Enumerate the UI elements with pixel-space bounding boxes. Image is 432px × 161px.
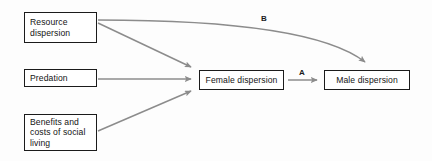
- node-label-line: Male dispersion: [336, 75, 398, 86]
- dispersion-flow-diagram: Resource dispersion Predation Benefits a…: [0, 0, 432, 161]
- node-female-dispersion: Female dispersion: [199, 70, 284, 90]
- node-predation: Predation: [24, 69, 97, 87]
- edge-resource-to-male: [98, 20, 365, 62]
- node-label-line: living: [30, 138, 50, 149]
- node-resource-dispersion: Resource dispersion: [24, 12, 97, 43]
- node-label-line: Predation: [30, 73, 68, 84]
- node-label-line: costs of social: [30, 127, 85, 138]
- node-male-dispersion: Male dispersion: [324, 70, 410, 90]
- edge-resource-to-female: [98, 23, 191, 67]
- node-benefits-costs-social-living: Benefits and costs of social living: [24, 114, 97, 151]
- edge-label-a: A: [299, 68, 305, 77]
- node-label-line: Benefits and: [30, 117, 79, 128]
- edge-label-b: B: [261, 14, 267, 23]
- node-label-line: dispersion: [30, 28, 70, 39]
- edge-benefits-to-female: [98, 91, 191, 131]
- node-label-line: Resource: [30, 17, 68, 28]
- node-label-line: Female dispersion: [206, 75, 278, 86]
